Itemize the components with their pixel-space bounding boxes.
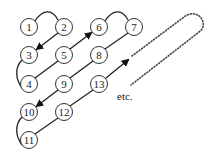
node-2: 2 (56, 19, 73, 36)
svg-text:2: 2 (61, 21, 67, 33)
node-3: 3 (21, 47, 38, 64)
svg-text:4: 4 (26, 78, 32, 90)
node-8: 8 (91, 47, 108, 64)
line-12-13 (70, 90, 93, 106)
svg-text:12: 12 (59, 106, 70, 118)
node-5: 5 (56, 47, 73, 64)
svg-text:1: 1 (26, 21, 32, 33)
line-8-9 (70, 61, 93, 78)
etc-label: etc. (117, 90, 133, 102)
diagram-svg: 1 2 3 4 5 6 7 8 9 10 11 12 13 etc. (0, 0, 213, 159)
node-10: 10 (21, 104, 38, 121)
line-11-12 (35, 118, 58, 134)
svg-text:5: 5 (61, 49, 67, 61)
arc-6-7 (105, 12, 128, 21)
arrow-2-3 (37, 33, 58, 49)
arrow-5-6 (70, 33, 91, 49)
arc-1-2 (35, 12, 58, 21)
node-12: 12 (56, 104, 73, 121)
svg-text:11: 11 (24, 134, 35, 146)
svg-text:13: 13 (94, 78, 106, 90)
svg-text:10: 10 (24, 106, 36, 118)
svg-text:9: 9 (61, 78, 67, 90)
node-13: 13 (91, 76, 108, 93)
arrow-9-10 (37, 90, 58, 106)
arrow-13-out (106, 60, 128, 78)
diagram-canvas: 1 2 3 4 5 6 7 8 9 10 11 12 13 etc. (0, 0, 213, 159)
svg-text:6: 6 (96, 21, 102, 33)
node-9: 9 (56, 76, 73, 93)
node-6: 6 (91, 19, 108, 36)
node-1: 1 (21, 19, 38, 36)
svg-text:7: 7 (131, 21, 137, 33)
svg-text:8: 8 (96, 49, 102, 61)
svg-text:3: 3 (26, 49, 32, 61)
node-7: 7 (126, 19, 143, 36)
node-4: 4 (21, 76, 38, 93)
node-11: 11 (21, 132, 38, 149)
line-7-8 (105, 33, 128, 49)
line-4-5 (35, 61, 58, 78)
